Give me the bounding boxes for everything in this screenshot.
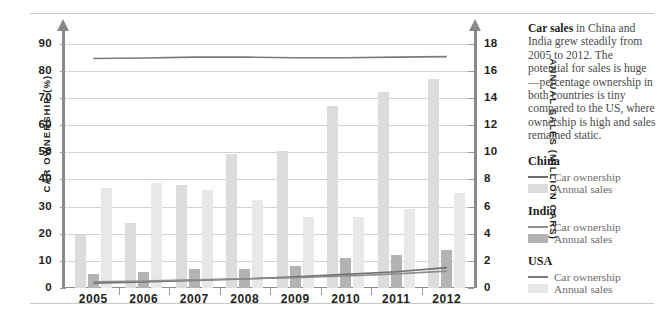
left-tick [60, 261, 66, 262]
right-tick-label: 14 [484, 91, 506, 103]
left-tick [60, 152, 66, 153]
left-tick-label: 0 [18, 281, 52, 293]
ownership-line [93, 271, 447, 282]
left-tick-label: 50 [18, 145, 52, 157]
right-axis-line [474, 30, 477, 288]
legend-country-title: USA [528, 254, 656, 269]
left-tick-label: 10 [18, 254, 52, 266]
car-sales-chart: CAR OWNERSHIP (%) ANNUAL SALES (MILLION … [0, 0, 505, 316]
right-tick-label: 16 [484, 64, 506, 76]
left-tick-label: 60 [18, 118, 52, 130]
right-tick-label: 8 [484, 172, 506, 184]
right-tick-label: 6 [484, 200, 506, 212]
x-axis-label: 2007 [167, 292, 221, 306]
right-tick-label: 10 [484, 145, 506, 157]
legend-row-sales: Annual sales [528, 283, 656, 295]
intro-lead: Car sales [528, 22, 573, 35]
legend: ChinaCar ownershipAnnual salesIndiaCar o… [528, 154, 656, 295]
legend-row-ownership: Car ownership [528, 221, 656, 233]
x-axis-label: 2008 [218, 292, 272, 306]
ownership-line [93, 57, 447, 59]
x-axis-label: 2011 [369, 292, 423, 306]
left-tick [60, 44, 66, 45]
legend-group: ChinaCar ownershipAnnual sales [528, 154, 656, 195]
legend-country-title: India [528, 204, 656, 219]
left-tick [60, 179, 66, 180]
legend-label: Car ownership [554, 221, 621, 233]
intro-paragraph: Car sales in China and India grew steadi… [528, 22, 656, 143]
legend-line-swatch [528, 176, 548, 178]
x-axis-label: 2005 [66, 292, 120, 306]
legend-row-sales: Annual sales [528, 233, 656, 245]
left-tick [60, 98, 66, 99]
left-tick-label: 80 [18, 64, 52, 76]
ownership-line-series [68, 30, 472, 288]
right-tick [468, 288, 474, 289]
intro-body: in China and India grew steadily from 20… [528, 22, 656, 142]
legend-bar-swatch [528, 184, 548, 193]
legend-label: Annual sales [554, 183, 613, 195]
x-axis-label: 2009 [268, 292, 322, 306]
right-tick-label: 18 [484, 37, 506, 49]
legend-row-sales: Annual sales [528, 183, 656, 195]
legend-label: Car ownership [554, 271, 621, 283]
left-tick-label: 70 [18, 91, 52, 103]
left-tick-label: 90 [18, 37, 52, 49]
legend-row-ownership: Car ownership [528, 271, 656, 283]
left-tick [60, 207, 66, 208]
left-tick [60, 234, 66, 235]
right-tick-label: 0 [484, 281, 506, 293]
left-tick [60, 288, 66, 289]
right-tick-label: 12 [484, 118, 506, 130]
legend-label: Annual sales [554, 283, 613, 295]
legend-row-ownership: Car ownership [528, 171, 656, 183]
left-tick [60, 125, 66, 126]
legend-label: Annual sales [554, 233, 613, 245]
left-tick-label: 20 [18, 227, 52, 239]
legend-label: Car ownership [554, 171, 621, 183]
legend-group: IndiaCar ownershipAnnual sales [528, 204, 656, 245]
x-axis-label: 2010 [319, 292, 373, 306]
legend-line-swatch [528, 276, 548, 278]
left-tick-label: 40 [18, 172, 52, 184]
legend-bar-swatch [528, 284, 548, 293]
legend-group: USACar ownershipAnnual sales [528, 254, 656, 295]
left-axis-line [62, 30, 65, 288]
left-tick [60, 71, 66, 72]
legend-line-swatch [528, 226, 548, 228]
x-axis-label: 2006 [117, 292, 171, 306]
left-tick-label: 30 [18, 200, 52, 212]
right-tick-label: 2 [484, 254, 506, 266]
side-panel: Car sales in China and India grew steadi… [528, 22, 656, 304]
right-tick-label: 4 [484, 227, 506, 239]
x-axis-label: 2012 [420, 292, 474, 306]
legend-country-title: China [528, 154, 656, 169]
legend-bar-swatch [528, 234, 548, 243]
